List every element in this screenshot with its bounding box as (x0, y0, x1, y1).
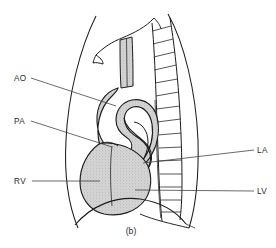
trachea (120, 37, 133, 88)
label-ao: AO (14, 74, 27, 83)
label-lv: LV (257, 187, 267, 196)
label-pa: PA (14, 117, 25, 126)
lateral-chest-diagram: AO PA RV LA LV (b) (0, 0, 276, 248)
label-la: LA (257, 146, 268, 155)
figure-caption: (b) (126, 226, 137, 236)
label-rv: RV (14, 177, 26, 186)
